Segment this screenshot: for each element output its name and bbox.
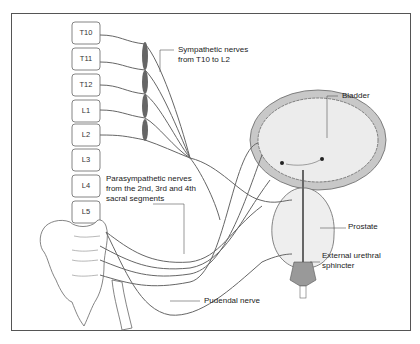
- vertebra-l2: L2: [71, 130, 101, 139]
- vertebra-t11: T11: [71, 54, 101, 63]
- label-pudendal: Pudendal nerve: [204, 296, 260, 306]
- label-sympathetic-line2: from T10 to L2: [178, 55, 248, 65]
- label-parasympathetic: Parasympathetic nerves from the 2nd, 3rd…: [106, 174, 196, 204]
- vertebra-t12: T12: [71, 80, 101, 89]
- sacrum: [40, 220, 107, 326]
- label-sympathetic-line1: Sympathetic nerves: [178, 45, 248, 55]
- label-sphincter-line1: External urethral: [322, 251, 381, 261]
- label-sphincter-line2: sphincter: [322, 261, 381, 271]
- bladder: [250, 90, 386, 190]
- vertebra-l1: L1: [71, 106, 101, 115]
- label-bladder: Bladder: [342, 91, 370, 101]
- spine: [72, 22, 100, 223]
- label-parasympathetic-line2: from the 2nd, 3rd and 4th: [106, 184, 196, 194]
- label-prostate: Prostate: [348, 222, 378, 232]
- vertebra-t10: T10: [71, 28, 101, 37]
- label-sympathetic: Sympathetic nerves from T10 to L2: [178, 45, 248, 65]
- sympathetic-ganglia: [142, 42, 148, 141]
- vertebra-l4: L4: [71, 181, 101, 190]
- label-parasympathetic-line3: sacral segments: [106, 194, 196, 204]
- vertebra-l5: L5: [71, 207, 101, 216]
- label-parasympathetic-line1: Parasympathetic nerves: [106, 174, 196, 184]
- label-sphincter: External urethral sphincter: [322, 251, 381, 271]
- vertebra-l3: L3: [71, 155, 101, 164]
